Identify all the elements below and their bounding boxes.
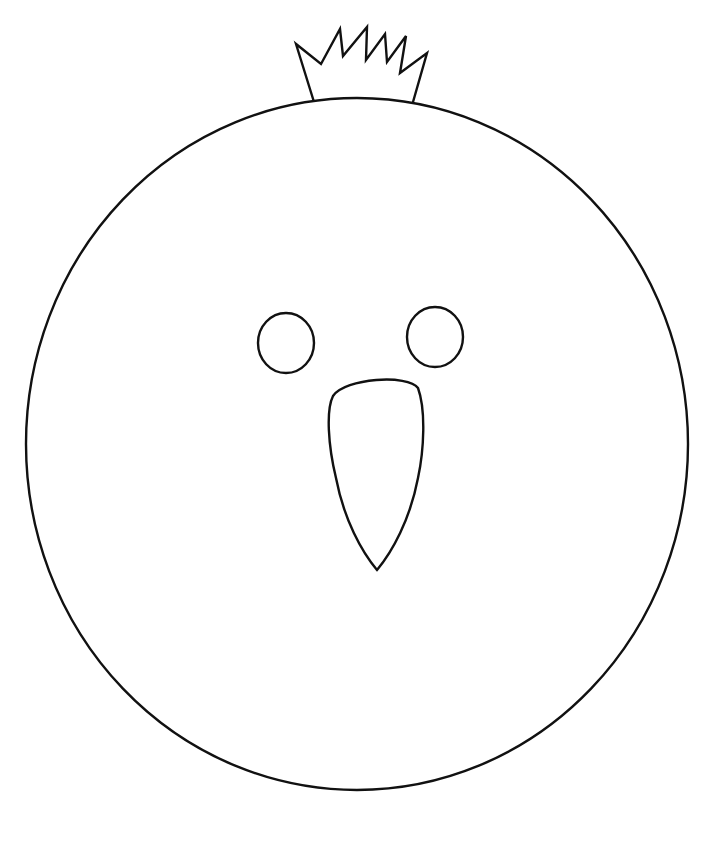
coloring-page [0, 0, 721, 844]
head-outline [26, 98, 688, 790]
drawing [0, 0, 721, 844]
crown-icon [296, 27, 427, 102]
